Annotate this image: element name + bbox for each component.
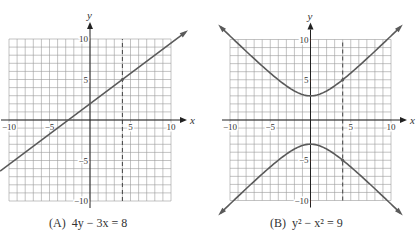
caption-b-equation: y² − x² = 9 <box>292 216 343 230</box>
y-tick-label: 10 <box>79 34 89 44</box>
marked-point <box>341 159 344 162</box>
graph-b: xy−10−5510105−5−10 <box>218 10 415 216</box>
x-tick-label: 5 <box>349 122 354 132</box>
x-tick-label: −10 <box>223 122 238 132</box>
y-tick-label: −10 <box>74 196 89 206</box>
y-axis-label: y <box>86 9 92 21</box>
y-axis-arrow-icon <box>87 22 93 29</box>
graph-a: xy−10−5510105−5−10 <box>0 9 195 208</box>
x-axis-arrow-icon <box>400 117 407 123</box>
x-axis-arrow-icon <box>180 117 187 123</box>
y-axis-arrow-icon <box>308 23 314 30</box>
x-tick-label: 10 <box>167 122 177 132</box>
x-tick-label: 10 <box>387 122 397 132</box>
y-tick-label: −10 <box>294 196 309 206</box>
x-axis-label: x <box>189 114 195 126</box>
graphs-canvas: xy−10−5510105−5−10 xy−10−5510105−5−10 <box>0 0 417 240</box>
y-tick-label: −5 <box>78 156 88 166</box>
x-tick-label: −10 <box>2 122 17 132</box>
x-tick-label: 5 <box>128 122 133 132</box>
line-4y-3x-8 <box>0 32 185 171</box>
marked-point <box>341 78 344 81</box>
y-axis-label: y <box>307 10 313 22</box>
caption-a-equation: 4y − 3x = 8 <box>72 216 128 230</box>
point-4-5 <box>121 78 124 81</box>
y-tick-label: 5 <box>304 75 309 85</box>
y-tick-label: 10 <box>300 35 310 45</box>
caption-b: (B) y² − x² = 9 <box>270 216 343 231</box>
y-tick-label: −5 <box>299 155 309 165</box>
caption-b-label: (B) <box>270 216 286 230</box>
caption-a: (A) 4y − 3x = 8 <box>49 216 127 231</box>
x-tick-label: −5 <box>265 122 275 132</box>
y-tick-label: 5 <box>84 75 89 85</box>
x-axis-label: x <box>409 114 415 126</box>
caption-a-label: (A) <box>49 216 66 230</box>
